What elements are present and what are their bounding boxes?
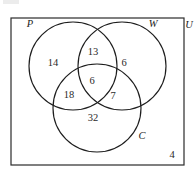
region-value-p-and-w: 13 <box>88 46 99 57</box>
region-value-p-only: 14 <box>48 57 59 68</box>
region-value-p-and-c: 18 <box>64 89 75 100</box>
outside-universe-count: 4 <box>169 149 175 160</box>
venn-diagram-page: P W C U 14 13 6 6 18 7 32 4 <box>0 0 196 174</box>
set-label-c: C <box>138 130 146 141</box>
set-label-p: P <box>26 18 34 29</box>
region-value-c-only: 32 <box>88 112 99 123</box>
circle-set-c <box>53 64 141 152</box>
set-label-w: W <box>149 18 159 29</box>
region-value-w-only: 6 <box>121 57 126 68</box>
universe-label-u: U <box>185 19 194 30</box>
region-value-w-and-c: 7 <box>110 90 115 101</box>
region-value-p-w-c: 6 <box>89 75 94 86</box>
venn-diagram-canvas: P W C U 14 13 6 6 18 7 32 4 <box>0 0 196 174</box>
